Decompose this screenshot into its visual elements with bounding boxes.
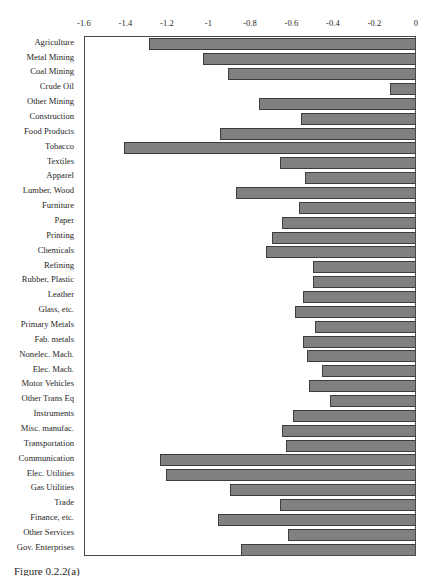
y-tick-label: Transportation (24, 436, 74, 451)
y-tick-label: Construction (30, 109, 74, 124)
y-tick-label: Glass, etc. (38, 302, 74, 317)
bar (307, 350, 416, 362)
bar (305, 172, 416, 184)
bar (303, 336, 416, 348)
bar (280, 499, 416, 511)
x-tick-label: -0.4 (326, 18, 340, 29)
x-tick-label: -0.8 (243, 18, 257, 29)
bar (259, 98, 416, 110)
bar (218, 514, 416, 526)
bar (322, 365, 416, 377)
y-tick-label: Lumber, Wood (23, 183, 74, 198)
x-tick-label: -1.6 (77, 18, 91, 29)
x-tick-label: -0.6 (285, 18, 299, 29)
bar (295, 306, 416, 318)
figure-container: -1.6-1.4-1.2-1-0.8-0.6-0.4-0.20 Agricult… (0, 0, 433, 576)
bar (280, 157, 416, 169)
bar (230, 484, 416, 496)
y-tick-label: Rubber, Plastic (22, 272, 74, 287)
bar (282, 217, 416, 229)
bar (220, 128, 416, 140)
bar (236, 187, 416, 199)
y-tick-label: Communication (19, 451, 74, 466)
y-tick-label: Other Mining (27, 94, 74, 109)
x-tick-label: 0 (414, 18, 418, 29)
bar (315, 321, 416, 333)
x-tick-label: -0.2 (368, 18, 382, 29)
y-tick-label: Paper (54, 213, 74, 228)
y-tick-label: Primary Metals (21, 317, 74, 332)
y-tick-label: Fab. metals (34, 332, 74, 347)
figure-caption: Figure 0.2.2(a) (14, 565, 80, 576)
bar (313, 261, 416, 273)
y-tick-label: Elec. Utilities (27, 466, 74, 481)
y-tick-label: Printing (46, 228, 74, 243)
bar (149, 38, 416, 50)
y-tick-label: Furniture (42, 198, 74, 213)
y-tick-label: Apparel (46, 168, 74, 183)
bar (330, 395, 416, 407)
y-axis-category-labels: AgricultureMetal MiningCoal MiningCrude … (0, 36, 78, 556)
bar (272, 232, 416, 244)
y-tick-label: Gas Utilities (31, 480, 74, 495)
x-tick-label: -1.2 (160, 18, 174, 29)
x-axis-tick-labels: -1.6-1.4-1.2-1-0.8-0.6-0.4-0.20 (84, 18, 416, 36)
y-tick-label: Trade (54, 495, 74, 510)
y-tick-label: Other Services (23, 525, 74, 540)
bar (124, 142, 416, 154)
y-tick-label: Motor Vehicles (21, 376, 74, 391)
y-tick-label: Agriculture (34, 35, 74, 50)
y-tick-label: Metal Mining (26, 50, 74, 65)
bar (303, 291, 416, 303)
bar (203, 53, 416, 65)
y-tick-label: Crude Oil (40, 79, 74, 94)
bar (266, 246, 416, 258)
bar (241, 544, 416, 556)
x-tick-label: -1.4 (119, 18, 133, 29)
y-tick-label: Other Trans Eq (21, 391, 74, 406)
bar (288, 529, 416, 541)
x-tick-label: -1 (205, 18, 212, 29)
y-tick-label: Nonelec. Mach. (19, 347, 74, 362)
y-tick-label: Elec. Mach. (33, 362, 74, 377)
bar (299, 202, 416, 214)
y-tick-label: Refining (44, 258, 74, 273)
y-tick-label: Coal Mining (30, 64, 74, 79)
bar (160, 454, 416, 466)
y-tick-label: Finance, etc. (30, 510, 74, 525)
bar (286, 440, 416, 452)
bar (166, 469, 416, 481)
y-tick-label: Food Products (24, 124, 74, 139)
y-tick-label: Instruments (33, 406, 74, 421)
y-tick-label: Textiles (47, 154, 74, 169)
bar (309, 380, 416, 392)
y-tick-label: Tobacco (45, 139, 74, 154)
plot-area (84, 36, 416, 556)
bar (228, 68, 416, 80)
y-tick-label: Chemicals (38, 243, 74, 258)
bar (282, 425, 416, 437)
bar (301, 113, 416, 125)
bar (390, 83, 416, 95)
y-tick-label: Leather (48, 287, 74, 302)
bar (293, 410, 417, 422)
y-tick-label: Misc. manufac. (21, 421, 74, 436)
bar (313, 276, 416, 288)
y-tick-label: Gov. Enterprises (17, 540, 74, 555)
